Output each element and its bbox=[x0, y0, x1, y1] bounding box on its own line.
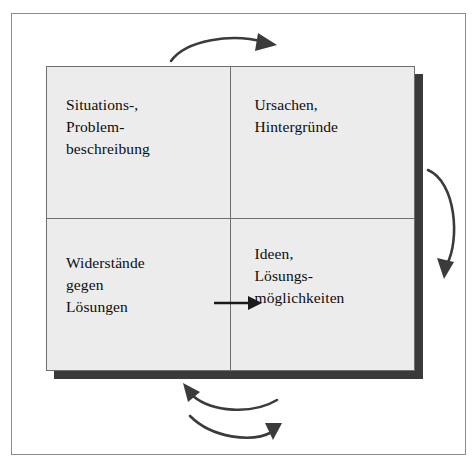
quadrant-top-left-line-3: beschreibung bbox=[66, 138, 230, 160]
quadrant-bottom-left[interactable]: Widerstände gegen Lösungen bbox=[47, 219, 231, 371]
quadrant-bottom-left-line-3: Lösungen bbox=[66, 296, 230, 318]
quadrant-matrix: Situations-, Problem- beschreibung Ursac… bbox=[46, 66, 415, 371]
quadrant-bottom-right[interactable]: Ideen, Lösungs- möglichkeiten bbox=[231, 219, 415, 371]
quadrant-top-left-line-1: Situations-, bbox=[66, 94, 230, 116]
quadrant-bottom-right-line-3: möglichkeiten bbox=[255, 287, 415, 309]
quadrant-bottom-left-line-1: Widerstände bbox=[66, 252, 230, 274]
quadrant-top-right-line-2: Hintergründe bbox=[255, 116, 415, 138]
quadrant-top-left-line-2: Problem- bbox=[66, 116, 230, 138]
quadrant-top-left[interactable]: Situations-, Problem- beschreibung bbox=[47, 67, 231, 219]
quadrant-bottom-right-line-1: Ideen, bbox=[255, 243, 415, 265]
quadrant-top-right[interactable]: Ursachen, Hintergründe bbox=[231, 67, 415, 219]
diagram-canvas: Situations-, Problem- beschreibung Ursac… bbox=[0, 0, 476, 468]
quadrant-top-right-line-1: Ursachen, bbox=[255, 94, 415, 116]
quadrant-bottom-left-line-2: gegen bbox=[66, 274, 230, 296]
quadrant-bottom-right-line-2: Lösungs- bbox=[255, 265, 415, 287]
